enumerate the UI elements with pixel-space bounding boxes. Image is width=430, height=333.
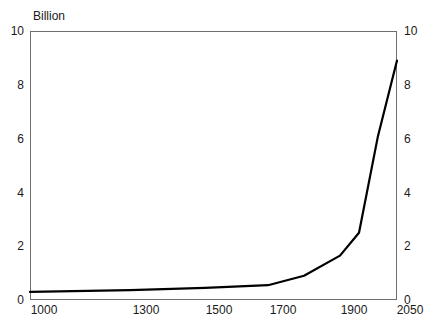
x-axis-tick-1900: 1900 — [341, 304, 368, 317]
y-axis-left-tick-0: 0 — [17, 294, 24, 306]
x-axis-tick-1300: 1300 — [133, 304, 160, 317]
y-axis-left-tick-10: 10 — [11, 25, 24, 37]
y-axis-left-tick-6: 6 — [17, 133, 24, 145]
population-line-chart: Billion 10 8 6 4 2 0 10 8 6 4 2 0 1000 1… — [0, 0, 430, 333]
y-axis-right-tick-10: 10 — [404, 25, 417, 37]
y-axis-right-tick-6: 6 — [404, 133, 411, 145]
x-axis-tick-1000: 1000 — [31, 304, 58, 317]
y-axis-right-tick-8: 8 — [404, 79, 411, 91]
y-axis-left-tick-8: 8 — [17, 79, 24, 91]
x-axis-tick-1700: 1700 — [270, 304, 297, 317]
y-axis-right-tick-4: 4 — [404, 187, 411, 199]
x-axis-tick-1500: 1500 — [206, 304, 233, 317]
y-axis-unit-label: Billion — [33, 9, 65, 23]
y-axis-left-tick-4: 4 — [17, 187, 24, 199]
y-axis-left-tick-2: 2 — [17, 240, 24, 252]
y-axis-right-tick-2: 2 — [404, 240, 411, 252]
x-axis-tick-2050: 2050 — [397, 304, 424, 317]
plot-area-frame — [30, 31, 397, 300]
